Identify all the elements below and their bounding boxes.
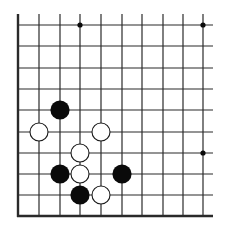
go-board — [0, 0, 228, 232]
white-stone — [71, 165, 89, 183]
white-stone — [92, 186, 110, 204]
black-stone — [50, 164, 69, 183]
black-stone — [112, 164, 131, 183]
white-stone — [30, 123, 48, 141]
black-stone — [70, 185, 89, 204]
star-point — [200, 150, 205, 155]
white-stone — [92, 123, 110, 141]
star-point — [200, 22, 205, 27]
black-stone — [50, 100, 69, 119]
white-stone — [71, 144, 89, 162]
board-grid — [17, 14, 213, 217]
star-point — [77, 22, 82, 27]
